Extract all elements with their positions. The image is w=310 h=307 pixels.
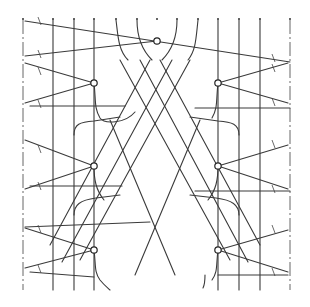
outer-rails	[23, 20, 290, 290]
right-fan	[195, 63, 290, 275]
node-top	[154, 38, 160, 44]
node-left-1	[91, 80, 97, 86]
weave-diagram	[0, 0, 310, 307]
node-right-1	[215, 80, 221, 86]
right-bends	[190, 83, 239, 288]
top-dots	[22, 18, 291, 20]
diagram-canvas	[0, 0, 310, 307]
center-lattice	[50, 60, 260, 275]
node-left-3	[91, 247, 97, 253]
node-left-2	[91, 163, 97, 169]
vertical-rails	[53, 20, 260, 290]
node-right-3	[215, 247, 221, 253]
nodes	[91, 38, 221, 253]
node-right-2	[215, 163, 221, 169]
left-fan	[25, 63, 125, 277]
left-horizontals	[25, 186, 150, 227]
